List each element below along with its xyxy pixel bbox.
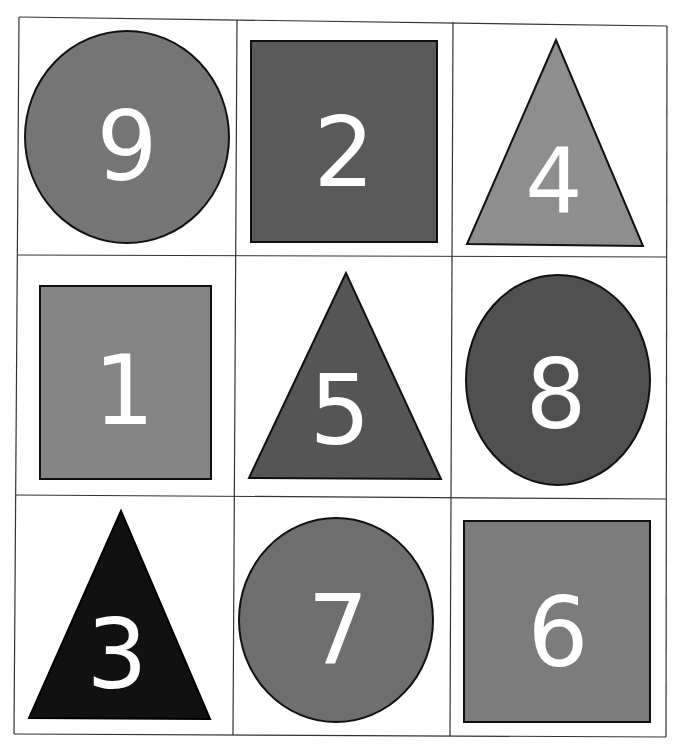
cell-number: 8 [525,339,586,451]
cell-number: 2 [313,97,374,209]
cell-number: 5 [309,355,370,467]
cell-2: 2 [251,41,437,242]
cell-3: 3 [29,511,210,719]
cell-4: 4 [467,40,643,246]
cell-number: 6 [527,577,588,689]
cell-1: 1 [40,286,211,479]
cell-7: 7 [239,518,433,722]
number-shape-board: 9 2 4 1 5 8 3 7 6 [0,0,683,752]
cell-9: 9 [25,31,229,243]
cell-number: 4 [525,129,582,234]
cell-number: 9 [96,91,157,203]
cell-number: 7 [307,574,368,686]
cell-5: 5 [249,273,441,479]
cell-number: 3 [86,599,147,711]
cell-8: 8 [466,275,650,485]
cell-number: 1 [93,335,154,447]
cell-6: 6 [464,521,650,722]
